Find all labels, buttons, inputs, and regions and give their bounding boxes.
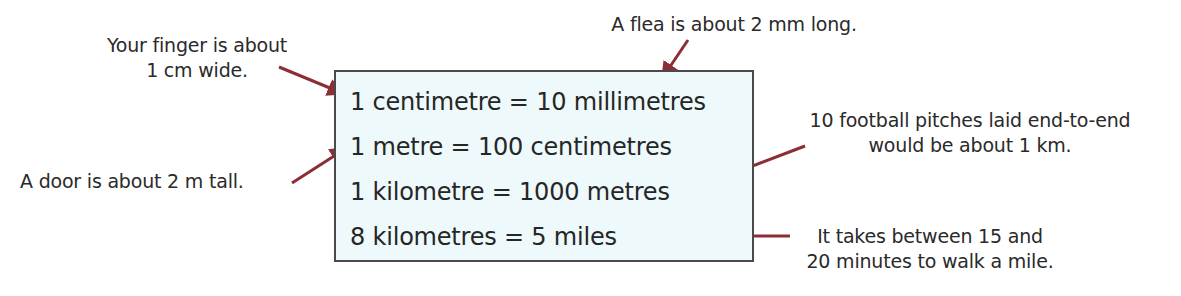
annotation-door-line-1: A door is about 2 m tall. [20, 169, 292, 194]
annotation-flea: A flea is about 2 mm long. [584, 12, 884, 37]
fact-m-cm: 1 metre = 100 centimetres [350, 133, 672, 161]
fact-km-m: 1 kilometre = 1000 metres [350, 178, 670, 206]
annotation-walk: It takes between 15 and 20 minutes to wa… [780, 224, 1080, 274]
fact-cm-mm: 1 centimetre = 10 millimetres [350, 88, 706, 116]
annotation-finger-line-2: 1 cm wide. [86, 58, 308, 83]
annotation-finger: Your finger is about 1 cm wide. [86, 33, 308, 83]
annotation-football-line-1: 10 football pitches laid end-to-end [774, 108, 1166, 133]
annotation-walk-line-2: 20 minutes to walk a mile. [780, 249, 1080, 274]
annotation-football: 10 football pitches laid end-to-end woul… [774, 108, 1166, 158]
annotation-walk-line-1: It takes between 15 and [780, 224, 1080, 249]
annotation-door: A door is about 2 m tall. [20, 169, 292, 194]
conversion-facts-box: 1 centimetre = 10 millimetres 1 metre = … [334, 70, 754, 262]
conversion-diagram: 1 centimetre = 10 millimetres 1 metre = … [0, 0, 1181, 296]
fact-km-miles: 8 kilometres = 5 miles [350, 223, 617, 251]
annotation-football-line-2: would be about 1 km. [774, 133, 1166, 158]
annotation-flea-line-1: A flea is about 2 mm long. [584, 12, 884, 37]
annotation-finger-line-1: Your finger is about [86, 33, 308, 58]
